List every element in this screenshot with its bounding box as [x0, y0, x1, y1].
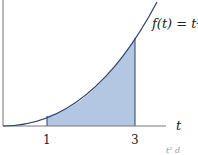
shaded-region [47, 38, 135, 126]
t-axis-label: t [176, 118, 181, 133]
footer-partial-text: t² d [166, 146, 180, 155]
tick-label-3: 3 [131, 133, 139, 147]
tick-label-1: 1 [43, 133, 51, 147]
function-label: f(t) = t² [152, 16, 198, 31]
